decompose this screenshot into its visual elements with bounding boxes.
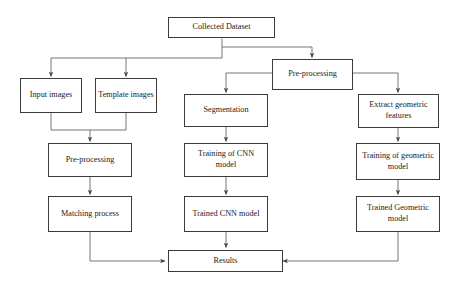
node-label: Pre-processing [51, 155, 129, 166]
node-label: Template images [98, 90, 154, 101]
node-template-images[interactable]: Template images [95, 78, 157, 113]
edge-preprocessing-segmentation [226, 73, 272, 93]
node-label: Training of geometric model [359, 151, 437, 173]
node-label: Matching process [51, 209, 129, 220]
node-label: Trained Geometric model [359, 203, 437, 225]
edge-matching-results [90, 232, 165, 261]
node-label: Pre-processing [275, 69, 350, 80]
node-label: Collected Dataset [171, 22, 272, 33]
node-label: Input images [23, 90, 79, 101]
node-training-geometric-model[interactable]: Training of geometric model [356, 143, 440, 180]
node-label: Training of CNN model [187, 149, 265, 171]
edge-dataset-preprocessing [222, 47, 312, 58]
node-label: Trained CNN model [187, 209, 265, 220]
node-preprocessing-left[interactable]: Pre-processing [48, 143, 132, 177]
node-input-images[interactable]: Input images [20, 78, 82, 113]
node-collected-dataset[interactable]: Collected Dataset [168, 17, 275, 38]
edge-template-merge [90, 113, 126, 130]
node-label: Results [171, 256, 280, 267]
node-results[interactable]: Results [168, 250, 283, 272]
edge-preprocessing-extract [353, 73, 398, 93]
edge-input-preprocessing [51, 113, 90, 142]
node-segmentation[interactable]: Segmentation [184, 94, 268, 127]
node-matching-process[interactable]: Matching process [48, 196, 132, 232]
node-trained-cnn-model[interactable]: Trained CNN model [184, 196, 268, 232]
edge-dataset-input [51, 58, 222, 77]
node-trained-geometric-model[interactable]: Trained Geometric model [356, 196, 440, 232]
edge-trained-geometric-results [283, 232, 398, 261]
node-extract-geometric-features[interactable]: Extract geometric features [358, 94, 439, 128]
node-preprocessing-right[interactable]: Pre-processing [272, 59, 353, 90]
node-training-cnn-model[interactable]: Training of CNN model [184, 143, 268, 177]
flowchart-canvas: Collected Dataset Input images Template … [0, 0, 461, 285]
node-label: Segmentation [187, 105, 265, 116]
node-label: Extract geometric features [361, 100, 436, 122]
